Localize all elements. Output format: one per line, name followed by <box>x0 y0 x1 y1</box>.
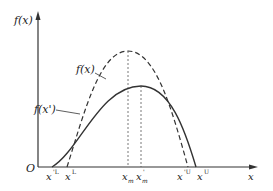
tick-x-prime-U: x 'U <box>177 168 191 182</box>
svg-text:'L: 'L <box>53 168 59 175</box>
fx-prime-curve-label: f(x') <box>33 103 56 116</box>
svg-text:': ' <box>143 168 145 175</box>
svg-text:x: x <box>46 171 52 182</box>
fx-curve-label: f(x) <box>75 63 95 76</box>
svg-text:m: m <box>128 177 134 184</box>
tick-x-prime-L: x 'L <box>46 168 59 182</box>
tick-x-prime-m: x ' m <box>136 168 148 184</box>
tick-x-m: x m <box>122 171 134 184</box>
svg-text:'U: 'U <box>184 168 191 175</box>
fx-prime-solid-curve <box>52 86 196 167</box>
tick-x-U: x U <box>197 168 209 182</box>
tick-x-L: x L <box>65 168 76 182</box>
svg-text:x: x <box>197 171 203 182</box>
svg-text:x: x <box>177 171 183 182</box>
svg-text:m: m <box>142 177 148 184</box>
x-axis-arrow-icon <box>249 165 258 170</box>
diagram-canvas: f(x) f(x) f(x') O x x 'L x L x m x ' m x… <box>0 0 273 191</box>
svg-text:x: x <box>65 171 71 182</box>
origin-label: O <box>26 162 35 175</box>
svg-text:U: U <box>204 168 209 175</box>
x-axis-label: x <box>248 171 254 182</box>
y-axis-label: f(x) <box>13 14 33 27</box>
fx-prime-leader-line <box>56 110 80 114</box>
svg-text:L: L <box>72 168 76 175</box>
y-axis-arrow-icon <box>36 11 41 20</box>
